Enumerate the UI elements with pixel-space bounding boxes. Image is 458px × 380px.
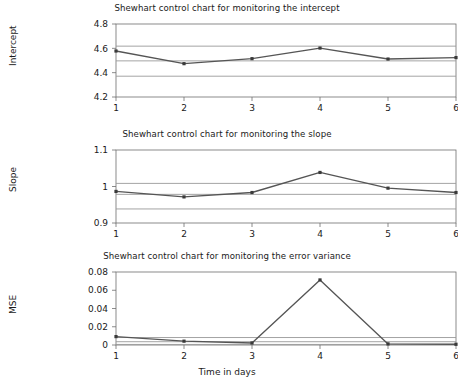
y-tick-label: 0.02: [88, 322, 108, 332]
y-tick-label: 0.04: [88, 304, 108, 314]
chart-title-slope: Shewhart control chart for monitoring th…: [0, 129, 454, 139]
data-point-marker: [454, 191, 457, 194]
data-point-marker: [318, 46, 321, 49]
data-point-marker: [114, 335, 117, 338]
y-tick-label: 4.6: [94, 44, 109, 54]
series-line-intercept: [116, 48, 456, 64]
x-tick-label: 2: [181, 229, 187, 239]
data-point-marker: [250, 341, 253, 344]
x-tick-label: 6: [453, 103, 458, 113]
y-axis-label-intercept: Intercept: [6, 52, 20, 66]
x-tick-label: 6: [453, 351, 458, 361]
series-line-slope: [116, 172, 456, 196]
data-point-marker: [318, 171, 321, 174]
x-tick-label: 5: [385, 103, 391, 113]
plot-area-slope: 0.911.1123456: [62, 148, 402, 221]
data-point-marker: [182, 195, 185, 198]
data-point-marker: [250, 57, 253, 60]
y-tick-label: 0: [102, 340, 108, 350]
y-axis-label-mse: MSE: [6, 300, 20, 314]
x-tick-label: 4: [317, 351, 323, 361]
y-tick-label: 4.2: [94, 92, 108, 102]
data-point-marker: [114, 190, 117, 193]
x-tick-label: 1: [113, 351, 119, 361]
x-tick-label: 2: [181, 103, 187, 113]
data-point-marker: [386, 187, 389, 190]
x-tick-label: 1: [113, 103, 119, 113]
chart-title-intercept: Shewhart control chart for monitoring th…: [0, 3, 454, 13]
data-point-marker: [454, 343, 457, 346]
x-tick-label: 2: [181, 351, 187, 361]
y-tick-label: 0.9: [94, 218, 109, 228]
y-axis-label-slope: Slope: [6, 178, 20, 192]
y-tick-label: 4.8: [94, 19, 109, 29]
x-tick-label: 5: [385, 229, 391, 239]
x-axis-label: Time in days: [0, 367, 454, 377]
x-tick-label: 3: [249, 103, 255, 113]
y-tick-label: 1: [102, 182, 108, 192]
data-point-marker: [250, 191, 253, 194]
x-tick-label: 6: [453, 229, 458, 239]
data-point-marker: [318, 278, 321, 281]
y-tick-label: 1.1: [94, 145, 108, 155]
x-tick-label: 3: [249, 229, 255, 239]
plot-svg-slope: 0.911.1123456: [62, 148, 458, 247]
chart-panel-error-variance: Shewhart control chart for monitoring th…: [0, 248, 454, 380]
y-tick-label: 4.4: [94, 68, 109, 78]
plot-area-error-variance: 00.020.040.060.08123456: [62, 270, 402, 343]
data-point-marker: [386, 342, 389, 345]
plot-frame: [116, 150, 456, 223]
x-tick-label: 5: [385, 351, 391, 361]
data-point-marker: [386, 57, 389, 60]
series-line-mse: [116, 280, 456, 344]
plot-svg-intercept: 4.24.44.64.8123456: [62, 22, 458, 121]
x-tick-label: 3: [249, 351, 255, 361]
data-point-marker: [182, 62, 185, 65]
chart-panel-slope: Shewhart control chart for monitoring th…: [0, 126, 454, 248]
chart-panel-intercept: Shewhart control chart for monitoring th…: [0, 0, 454, 126]
y-tick-label: 0.08: [88, 267, 108, 277]
plot-frame: [116, 272, 456, 345]
chart-title-error-variance: Shewhart control chart for monitoring th…: [0, 251, 454, 261]
data-point-marker: [182, 340, 185, 343]
plot-svg-mse: 00.020.040.060.08123456: [62, 270, 458, 369]
x-tick-label: 4: [317, 229, 323, 239]
x-tick-label: 4: [317, 103, 323, 113]
data-point-marker: [454, 56, 457, 59]
plot-area-intercept: 4.24.44.64.8123456: [62, 22, 402, 95]
data-point-marker: [114, 49, 117, 52]
x-tick-label: 1: [113, 229, 119, 239]
y-tick-label: 0.06: [88, 285, 108, 295]
